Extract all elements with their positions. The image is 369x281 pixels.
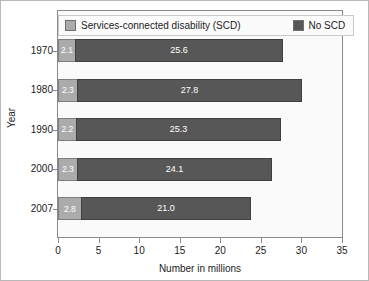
x-axis-tick-label: 35	[327, 246, 357, 256]
y-axis-tick-mark	[53, 169, 57, 170]
x-axis-tick-mark	[342, 238, 343, 243]
y-axis-tick-mark	[53, 90, 57, 91]
bar-segment-scd: 2.2	[58, 118, 76, 141]
bar-row: 2.821.0	[58, 197, 251, 220]
bar-value-label: 2.3	[62, 165, 74, 174]
legend-item-no-scd: No SCD	[293, 20, 346, 31]
bar-row: 2.125.6	[58, 39, 283, 62]
y-axis-tick-label: 2007	[21, 204, 53, 214]
bar-segment-scd: 2.3	[58, 158, 77, 181]
bar-segment-scd: 2.1	[58, 39, 75, 62]
bar-value-label: 25.6	[170, 46, 188, 55]
x-axis-tick-label: 0	[43, 246, 73, 256]
bar-row: 2.327.8	[58, 79, 302, 102]
y-axis-tick-label: 1970	[21, 46, 53, 56]
legend-swatch-scd-icon	[65, 20, 76, 31]
chart-figure: Services-connected disability (SCD) No S…	[0, 0, 369, 281]
x-axis-tick-label: 25	[246, 246, 276, 256]
bar-value-label: 2.2	[62, 125, 74, 134]
x-axis-tick-mark	[99, 238, 100, 243]
y-axis-tick-label: 1980	[21, 85, 53, 95]
bar-value-label: 2.8	[64, 205, 76, 214]
bar-row: 2.324.1	[58, 158, 272, 181]
bar-value-label: 2.3	[62, 86, 74, 95]
bar-segment-no-scd: 25.3	[76, 118, 281, 141]
bar-segment-scd: 2.3	[58, 79, 77, 102]
x-axis-tick-label: 5	[84, 246, 114, 256]
x-axis-tick-mark	[139, 238, 140, 243]
y-axis-tick-mark	[53, 51, 57, 52]
y-axis-tick-mark	[53, 209, 57, 210]
chart-legend: Services-connected disability (SCD) No S…	[58, 15, 354, 36]
x-axis-tick-mark	[301, 238, 302, 243]
legend-swatch-no-scd-icon	[293, 20, 304, 31]
y-axis-tick-labels: 19701980199020002007	[19, 1, 53, 281]
x-axis-tick-label: 10	[124, 246, 154, 256]
x-axis-tick-label: 20	[205, 246, 235, 256]
legend-item-scd: Services-connected disability (SCD)	[65, 20, 241, 31]
x-axis-tick-label: 30	[286, 246, 316, 256]
y-axis-tick-label: 1990	[21, 125, 53, 135]
y-axis-tick-mark	[53, 130, 57, 131]
y-axis-tick-label: 2000	[21, 164, 53, 174]
legend-label-no-scd: No SCD	[309, 21, 346, 31]
x-axis-tick-mark	[58, 238, 59, 243]
bars-layer: 2.125.62.327.82.225.32.324.12.821.0	[1, 1, 368, 280]
bar-row: 2.225.3	[58, 118, 281, 141]
bar-segment-no-scd: 21.0	[81, 197, 251, 220]
legend-label-scd: Services-connected disability (SCD)	[81, 21, 241, 31]
y-axis-title: Year	[7, 98, 17, 138]
x-axis-title: Number in millions	[57, 264, 343, 274]
bar-value-label: 24.1	[166, 165, 184, 174]
bar-segment-no-scd: 27.8	[77, 79, 303, 102]
bar-value-label: 21.0	[157, 204, 175, 213]
bar-segment-no-scd: 24.1	[77, 158, 273, 181]
bar-segment-scd: 2.8	[58, 197, 81, 220]
x-axis-tick-mark	[220, 238, 221, 243]
bar-value-label: 2.1	[61, 46, 73, 55]
x-axis-tick-label: 15	[165, 246, 195, 256]
bar-value-label: 27.8	[181, 86, 199, 95]
x-axis-tick-mark	[261, 238, 262, 243]
x-axis-tick-mark	[180, 238, 181, 243]
bar-value-label: 25.3	[170, 125, 188, 134]
bar-segment-no-scd: 25.6	[75, 39, 283, 62]
